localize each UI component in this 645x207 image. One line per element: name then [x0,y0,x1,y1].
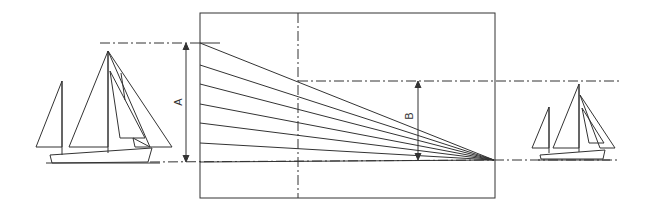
label-b: B [403,112,415,119]
picture-frame [200,13,495,198]
label-a: A [172,98,184,105]
dimension-b [415,81,421,160]
large-sailboat [36,51,172,163]
perspective-diagram [0,0,645,207]
dimension-a [183,43,189,162]
small-sailboat [532,84,615,160]
converging-lines [200,43,494,162]
